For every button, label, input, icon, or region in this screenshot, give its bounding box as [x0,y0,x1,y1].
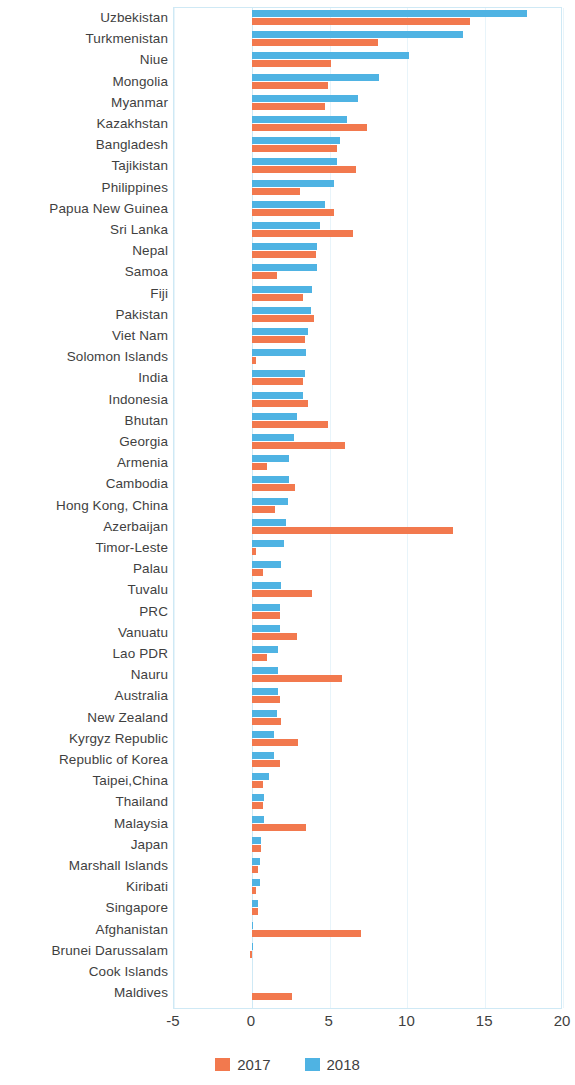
bar-2017 [252,421,328,428]
x-tick-label: 5 [324,1012,332,1029]
bar-row [174,962,561,983]
bar-2018 [252,879,260,886]
category-label: Nepal [0,240,168,261]
category-label: Samoa [0,261,168,282]
bar-2017 [252,60,331,67]
x-axis-ticks: -505101520 [0,1012,575,1036]
bar-2017 [252,315,314,322]
plot-area [173,7,562,1009]
bar-row [174,602,561,623]
bar-2018 [252,307,311,314]
bar-row [174,708,561,729]
bar-2018 [252,582,282,589]
category-label: Vanuatu [0,622,168,643]
bar-row [174,262,561,283]
bar-2018 [252,858,260,865]
bar-2017 [252,272,277,279]
bar-2018 [252,74,380,81]
category-label: Japan [0,834,168,855]
category-label: Armenia [0,452,168,473]
category-label: Philippines [0,177,168,198]
bar-row [174,559,561,580]
bar-2018 [252,31,464,38]
bar-2017 [252,739,299,746]
bar-2017 [252,802,263,809]
bar-2017 [252,654,268,661]
bar-2017 [252,527,453,534]
bar-2018 [252,180,334,187]
bar-2017 [252,633,297,640]
bar-2017 [252,124,367,131]
category-label: Nauru [0,664,168,685]
category-label: Mongolia [0,71,168,92]
bar-2017 [252,781,263,788]
category-label: Fiji [0,283,168,304]
bar-2017 [252,675,342,682]
category-label: Uzbekistan [0,7,168,28]
category-label: New Zealand [0,707,168,728]
category-label: Marshall Islands [0,855,168,876]
bar-2018 [252,731,274,738]
bar-2017 [252,718,282,725]
bar-2018 [252,667,278,674]
bar-2018 [252,816,264,823]
bar-rows [174,8,561,1008]
bar-2017 [252,294,303,301]
bar-2017 [252,251,316,258]
bar-row [174,93,561,114]
category-label: Myanmar [0,92,168,113]
bar-row [174,517,561,538]
bar-row [174,241,561,262]
legend-swatch-icon [215,1058,230,1071]
bar-2018 [252,943,253,950]
category-label: Solomon Islands [0,346,168,367]
bar-2018 [252,900,258,907]
bar-row [174,644,561,665]
bar-row [174,898,561,919]
bar-2017 [250,951,252,958]
bar-2017 [252,548,257,555]
bar-row [174,474,561,495]
category-label: Georgia [0,431,168,452]
legend-item-2017[interactable]: 2017 [215,1056,270,1073]
bar-2017 [252,442,345,449]
category-label: Azerbaijan [0,516,168,537]
bar-row [174,771,561,792]
x-tick-label: -5 [166,1012,179,1029]
category-label: Kazakhstan [0,113,168,134]
bar-2018 [252,476,289,483]
bar-row [174,538,561,559]
bar-row [174,156,561,177]
legend-item-2018[interactable]: 2018 [305,1056,360,1073]
category-label: Afghanistan [0,919,168,940]
bar-2018 [252,243,317,250]
bar-row [174,920,561,941]
bar-2018 [252,413,297,420]
category-label: Tuvalu [0,579,168,600]
bar-2017 [252,82,328,89]
bar-2018 [252,773,269,780]
bar-2017 [252,506,275,513]
chart-legend: 20172018 [0,1056,575,1073]
bar-2017 [252,824,306,831]
bar-2017 [252,590,313,597]
bar-2018 [252,201,325,208]
bar-2018 [252,349,306,356]
category-label: Maldives [0,982,168,1003]
bar-2018 [252,922,254,929]
category-label: Republic of Korea [0,749,168,770]
bar-row [174,29,561,50]
category-label: Bangladesh [0,134,168,155]
category-label: Malaysia [0,813,168,834]
category-label: Pakistan [0,304,168,325]
bar-2018 [252,688,278,695]
category-label: Australia [0,685,168,706]
bar-2017 [252,378,303,385]
x-tick-label: 10 [398,1012,415,1029]
bar-row [174,623,561,644]
bar-2018 [252,604,280,611]
bar-2018 [252,116,347,123]
x-tick-label: 20 [554,1012,571,1029]
bar-2018 [252,10,527,17]
bar-row [174,496,561,517]
